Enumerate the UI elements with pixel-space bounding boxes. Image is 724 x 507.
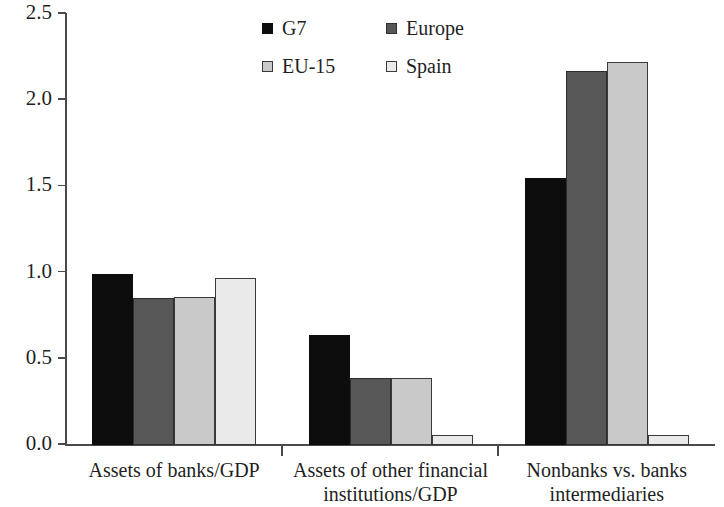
bar-spain-group-2 <box>432 435 473 445</box>
x-axis-category-label: Assets of other financialinstitutions/GD… <box>264 458 516 506</box>
y-axis-tick <box>58 98 66 100</box>
legend: G7 Europe EU-15 Spain <box>262 18 502 88</box>
bar-chart: 0.00.51.01.52.02.5 Assets of banks/GDPAs… <box>0 0 724 507</box>
x-axis-category-label: Nonbanks vs. banksintermediaries <box>481 458 724 506</box>
legend-item-spain[interactable]: Spain <box>386 56 452 76</box>
legend-swatch-spain <box>386 61 397 72</box>
bar-eu-15-group-1 <box>174 297 215 445</box>
y-axis-tick-label: 2.0 <box>0 88 52 109</box>
bar-g7-group-2 <box>309 335 350 445</box>
legend-item-g7[interactable]: G7 <box>262 18 306 38</box>
y-axis-tick <box>58 271 66 273</box>
legend-label-eu15: EU-15 <box>282 56 335 76</box>
bar-g7-group-1 <box>92 274 133 445</box>
x-axis-category-label-line: intermediaries <box>481 482 724 506</box>
bar-spain-group-1 <box>215 278 256 445</box>
x-axis-separator-tick <box>497 445 499 456</box>
legend-label-spain: Spain <box>406 56 452 76</box>
legend-label-g7: G7 <box>282 18 306 38</box>
legend-swatch-europe <box>386 23 397 34</box>
y-axis-tick <box>58 12 66 14</box>
x-axis-category-label-line: Assets of banks/GDP <box>48 458 300 482</box>
y-axis-tick-label: 0.0 <box>0 433 52 454</box>
bar-eu-15-group-2 <box>391 378 432 445</box>
legend-item-eu15[interactable]: EU-15 <box>262 56 335 76</box>
legend-item-europe[interactable]: Europe <box>386 18 464 38</box>
x-axis-category-label-line: Nonbanks vs. banks <box>481 458 724 482</box>
legend-label-europe: Europe <box>406 18 464 38</box>
y-axis-tick-label: 1.0 <box>0 261 52 282</box>
y-axis-tick-label: 0.5 <box>0 347 52 368</box>
bar-europe-group-1 <box>133 298 174 445</box>
bar-eu-15-group-3 <box>607 62 648 445</box>
x-axis-category-label-line: Assets of other financial <box>264 458 516 482</box>
y-axis-tick-label: 1.5 <box>0 174 52 195</box>
bar-g7-group-3 <box>525 178 566 445</box>
bar-spain-group-3 <box>648 435 689 445</box>
y-axis-tick <box>58 357 66 359</box>
x-axis-separator-tick <box>281 445 283 456</box>
y-axis-tick-label: 2.5 <box>0 2 52 23</box>
x-axis-category-label: Assets of banks/GDP <box>48 458 300 482</box>
legend-swatch-eu15 <box>262 61 273 72</box>
bar-europe-group-2 <box>350 378 391 445</box>
x-axis-category-label-line: institutions/GDP <box>264 482 516 506</box>
y-axis-tick <box>58 185 66 187</box>
legend-swatch-g7 <box>262 23 273 34</box>
bar-europe-group-3 <box>566 71 607 445</box>
